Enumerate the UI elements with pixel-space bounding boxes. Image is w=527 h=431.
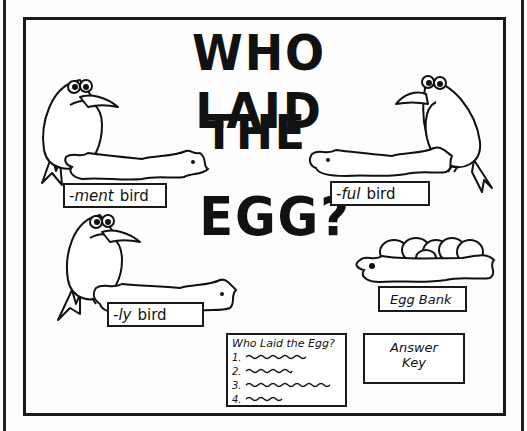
worksheet-card: Who Laid the Egg? 1. 2. 3. 4.: [226, 333, 347, 407]
bird-suffix: -ful: [336, 185, 360, 203]
egg-bank-label: Egg Bank: [378, 286, 467, 312]
bird-word: bird: [137, 306, 166, 324]
worksheet-item: 2.: [232, 364, 341, 378]
egg-bank-text: Egg Bank: [390, 292, 452, 307]
bird-suffix: -ment: [69, 187, 114, 205]
egg-nest-icon: [352, 230, 502, 292]
bird-suffix: -ly: [113, 306, 131, 324]
bird-word: bird: [120, 187, 149, 205]
worksheet-item-number: 3.: [232, 380, 246, 391]
worksheet-item-number: 1.: [232, 352, 246, 363]
title-line-3: EGG?: [199, 186, 319, 248]
squiggle-line-icon: [246, 354, 306, 360]
outer-border-left: [3, 0, 6, 431]
bird-label-ly: -ly bird: [107, 302, 204, 327]
nest-icon-ment: [62, 145, 212, 185]
worksheet-item-number: 4.: [232, 394, 246, 405]
squiggle-line-icon: [246, 382, 330, 388]
answer-key-line-1: Answer: [365, 340, 463, 355]
squiggle-line-icon: [246, 368, 292, 374]
outer-border-right: [521, 0, 524, 431]
answer-key-card: Answer Key: [363, 333, 465, 384]
worksheet-item: 1.: [232, 350, 341, 364]
worksheet-heading: Who Laid the Egg?: [232, 337, 341, 350]
worksheet-item-number: 2.: [232, 366, 246, 377]
title-line-2: THE: [204, 104, 296, 160]
bird-label-ment: -ment bird: [63, 183, 167, 208]
bird-word: bird: [366, 185, 395, 203]
worksheet-item: 4.: [232, 392, 341, 406]
worksheet-item: 3.: [232, 378, 341, 392]
answer-key-line-2: Key: [365, 355, 463, 370]
bird-label-ful: -ful bird: [330, 181, 430, 206]
nest-icon-ful: [306, 140, 456, 182]
squiggle-line-icon: [246, 396, 282, 402]
